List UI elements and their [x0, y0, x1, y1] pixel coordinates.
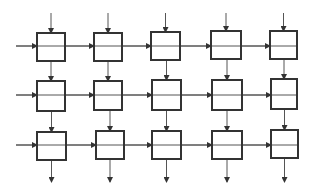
processing-cell-r2-c0: [37, 132, 66, 160]
processing-cell-r2-c4: [271, 130, 298, 158]
processing-cell-r1-c4: [271, 79, 297, 109]
processing-cell-r0-c3: [211, 31, 241, 59]
processing-cell-r0-c1: [94, 33, 122, 61]
processing-cell-r1-c0: [37, 81, 65, 111]
processing-cell-r0-c4: [270, 31, 297, 59]
processing-cell-r0-c0: [37, 33, 65, 61]
connection-lines: [16, 13, 297, 182]
systolic-array-diagram: [0, 0, 312, 192]
